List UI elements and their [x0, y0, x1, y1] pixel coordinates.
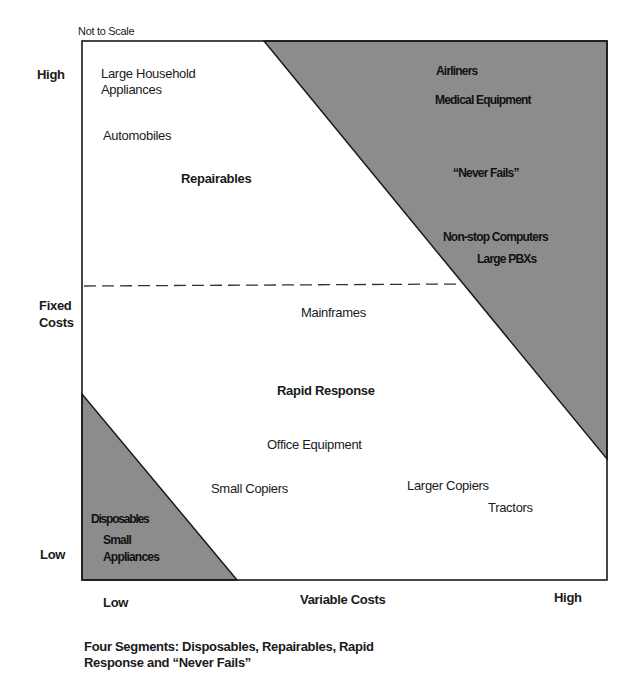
- item-small-copiers: Small Copiers: [211, 481, 288, 497]
- item-line: Large Household: [101, 66, 196, 82]
- x-axis-high-label: High: [554, 590, 582, 605]
- item-medical-equipment: Medical Equipment: [435, 92, 531, 109]
- item-airliners: Airliners: [436, 63, 478, 80]
- not-to-scale-note: Not to Scale: [78, 25, 134, 37]
- segment-divider-dashed: [84, 284, 462, 286]
- x-axis-low-label: Low: [103, 595, 128, 610]
- segment-label-rapid-response: Rapid Response: [277, 383, 375, 398]
- y-axis-high-label: High: [37, 67, 65, 82]
- item-large-household-appliances: Large Household Appliances: [101, 66, 196, 98]
- item-line: Appliances: [101, 82, 196, 98]
- item-line: Appliances: [103, 549, 159, 566]
- diagram-canvas: [0, 0, 637, 673]
- item-automobiles: Automobiles: [103, 128, 171, 144]
- y-axis-low-label: Low: [40, 547, 65, 562]
- item-small-appliances: Small Appliances: [103, 532, 159, 566]
- caption-line: Response and “Never Fails”: [84, 655, 374, 671]
- y-axis-title-line2: Costs: [39, 314, 74, 331]
- item-office-equipment: Office Equipment: [267, 437, 362, 453]
- segment-label-repairables: Repairables: [181, 171, 251, 186]
- x-axis-title: Variable Costs: [300, 592, 385, 607]
- item-mainframes: Mainframes: [301, 305, 366, 321]
- y-axis-title: Fixed Costs: [39, 297, 74, 331]
- item-non-stop-computers: Non-stop Computers: [443, 229, 548, 246]
- segment-label-disposables: Disposables: [91, 511, 149, 528]
- item-large-pbxs: Large PBXs: [477, 251, 536, 268]
- segment-label-never-fails: “Never Fails”: [453, 165, 519, 182]
- item-larger-copiers: Larger Copiers: [407, 478, 489, 494]
- item-tractors: Tractors: [488, 500, 533, 516]
- y-axis-title-line1: Fixed: [39, 297, 74, 314]
- item-line: Small: [103, 532, 159, 549]
- caption-line: Four Segments: Disposables, Repairables,…: [84, 639, 374, 655]
- figure-caption: Four Segments: Disposables, Repairables,…: [84, 639, 374, 671]
